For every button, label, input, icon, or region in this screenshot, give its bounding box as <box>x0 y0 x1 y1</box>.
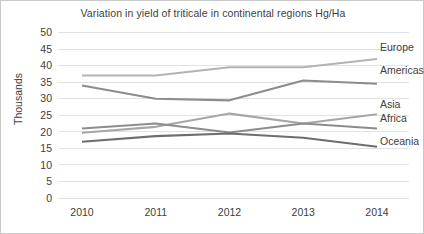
series-line-africa <box>82 124 377 133</box>
y-tick-label: 20 <box>40 126 52 138</box>
series-label-oceania: Oceania <box>380 135 419 147</box>
x-tick-label: 2014 <box>365 206 389 218</box>
gridlines <box>58 33 409 199</box>
line-chart: Variation in yield of triticale in conti… <box>0 0 424 234</box>
y-tick-label: 40 <box>40 59 52 71</box>
y-tick-labels: 05101520253035404550 <box>40 26 52 204</box>
y-tick-label: 15 <box>40 142 52 154</box>
y-tick-label: 50 <box>40 26 52 38</box>
series-line-europe <box>82 59 377 76</box>
x-tick-label: 2010 <box>70 206 94 218</box>
series-label-americas: Americas <box>380 64 424 76</box>
x-tick-label: 2011 <box>144 206 167 218</box>
y-tick-label: 0 <box>46 192 52 204</box>
y-tick-label: 10 <box>40 159 52 171</box>
series-line-oceania <box>82 133 377 146</box>
y-tick-label: 35 <box>40 76 52 88</box>
series-line-americas <box>82 81 377 101</box>
series-line-asia <box>82 114 377 133</box>
x-tick-label: 2012 <box>218 206 242 218</box>
y-tick-label: 45 <box>40 43 52 55</box>
y-tick-label: 30 <box>40 92 52 104</box>
series-label-europe: Europe <box>380 41 414 53</box>
series-label-africa: Africa <box>380 112 407 124</box>
series-labels: EuropeAmericasAsiaAfricaOceania <box>380 41 424 147</box>
x-tick-labels: 20102011201220132014 <box>70 206 389 218</box>
plot-area: 05101520253035404550 2010201120122013201… <box>1 1 424 234</box>
data-series <box>82 59 377 147</box>
x-tick-label: 2013 <box>292 206 316 218</box>
y-tick-label: 25 <box>40 109 52 121</box>
series-label-asia: Asia <box>380 98 401 110</box>
y-tick-label: 5 <box>46 175 52 187</box>
